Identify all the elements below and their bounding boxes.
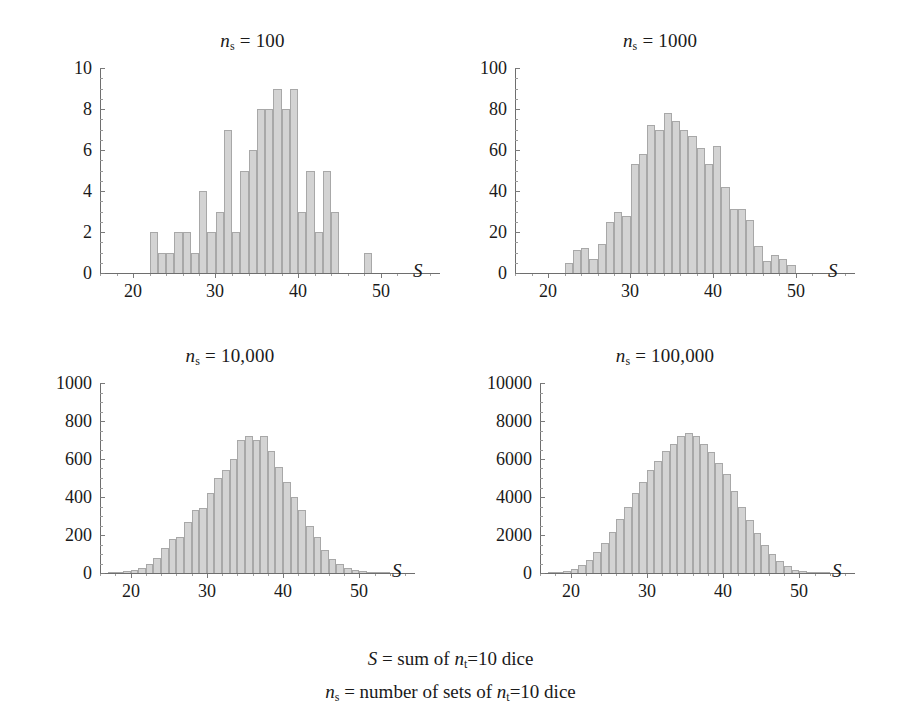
y-tick-label: 80 (489, 99, 507, 120)
y-minor-tick (100, 222, 103, 223)
y-minor-tick (540, 450, 543, 451)
x-minor-tick (115, 574, 116, 576)
x-minor-tick (515, 274, 516, 276)
y-minor-tick (515, 89, 518, 90)
y-tick-label: 8 (83, 99, 92, 120)
x-tick (283, 574, 284, 578)
histogram-bar (367, 572, 375, 573)
y-minor-tick (540, 402, 543, 403)
x-tick-label: 40 (704, 281, 722, 302)
panel-ns-100: ns = 100 024681020304050 S (60, 30, 445, 330)
x-minor-tick (344, 574, 345, 576)
histogram-bar (352, 570, 360, 573)
histogram-bar (265, 109, 273, 273)
histogram-bar (763, 261, 771, 273)
x-axis-line (540, 573, 855, 574)
x-minor-tick (176, 574, 177, 576)
x-minor-tick (830, 574, 831, 576)
y-minor-tick (515, 253, 518, 254)
panel-title-ns-100000: ns = 100,000 (495, 345, 835, 367)
histogram-bar (647, 125, 655, 273)
x-minor-tick (199, 274, 200, 276)
histogram-bar (364, 253, 372, 274)
histogram-bar (578, 565, 586, 573)
y-minor-tick (540, 516, 543, 517)
x-tick (381, 274, 382, 278)
x-minor-tick (146, 574, 147, 576)
y-tick (100, 459, 105, 460)
histogram-bar (192, 510, 200, 573)
y-tick (515, 68, 520, 69)
histogram-bar (222, 470, 230, 573)
x-tick-label: 20 (124, 281, 142, 302)
caption-sub-t: t (464, 657, 467, 671)
x-tick (133, 274, 134, 278)
panel-title-var: n (220, 30, 230, 51)
x-minor-tick (314, 574, 315, 576)
x-minor-tick (662, 574, 663, 576)
histogram-bar (639, 154, 647, 273)
caption-line-2: ns = number of sets of nt=10 dice (0, 681, 901, 703)
x-minor-tick (298, 574, 299, 576)
x-minor-tick (329, 574, 330, 576)
y-minor-tick (100, 468, 103, 469)
y-minor-tick (100, 201, 103, 202)
y-tick (515, 191, 520, 192)
y-minor-tick (515, 171, 518, 172)
x-tick (359, 574, 360, 578)
x-minor-tick (677, 574, 678, 576)
x-minor-tick (315, 274, 316, 276)
histogram-bar (685, 433, 693, 573)
y-tick (515, 109, 520, 110)
histogram-bar (314, 537, 322, 573)
x-minor-tick (249, 274, 250, 276)
histogram-bar (700, 444, 708, 573)
y-tick (540, 535, 545, 536)
y-tick (100, 535, 105, 536)
y-tick (100, 150, 105, 151)
x-tick (723, 574, 724, 578)
histogram-bar (779, 259, 787, 273)
y-tick-label: 6 (83, 140, 92, 161)
histogram-bar (662, 451, 670, 573)
y-minor-tick (100, 507, 103, 508)
panel-title-subscript: s (633, 39, 638, 53)
y-minor-tick (100, 440, 103, 441)
y-tick-label: 4 (83, 181, 92, 202)
y-tick (540, 421, 545, 422)
histogram-bar (672, 121, 680, 273)
histogram-bar (146, 564, 154, 574)
x-minor-tick (390, 574, 391, 576)
y-tick-label: 0 (83, 563, 92, 584)
y-tick (540, 459, 545, 460)
plot-area-ns-1000: 02040608010020304050 (515, 68, 845, 273)
histogram-bar (359, 571, 367, 573)
histogram-bar (298, 212, 306, 274)
x-minor-tick (647, 274, 648, 276)
caption-line2-mid: = number of sets of (339, 681, 496, 702)
x-tick-label: 20 (539, 281, 557, 302)
y-tick (540, 383, 545, 384)
y-minor-tick (100, 212, 103, 213)
histogram-figure: ns = 100 024681020304050 S ns = 1000 020… (0, 0, 901, 722)
y-minor-tick (540, 554, 543, 555)
histogram-bar (207, 232, 215, 273)
x-minor-tick (232, 274, 233, 276)
x-axis-line (515, 273, 855, 274)
x-tick-label: 20 (562, 581, 580, 602)
histogram-bar (275, 467, 283, 573)
histogram-bar (166, 253, 174, 274)
histogram-bar (639, 482, 647, 573)
panel-title-ns-10000: ns = 10,000 (60, 345, 400, 367)
histogram-bar (680, 130, 688, 274)
histogram-bar (631, 164, 639, 273)
y-minor-tick (100, 253, 103, 254)
y-tick (100, 232, 105, 233)
histogram-bar (323, 171, 331, 274)
y-minor-tick (515, 78, 518, 79)
y-tick-label: 100 (480, 58, 507, 79)
x-minor-tick (237, 574, 238, 576)
x-minor-tick (697, 274, 698, 276)
histogram-bar (589, 259, 597, 273)
caption-line1-mid: = sum of (377, 648, 454, 669)
